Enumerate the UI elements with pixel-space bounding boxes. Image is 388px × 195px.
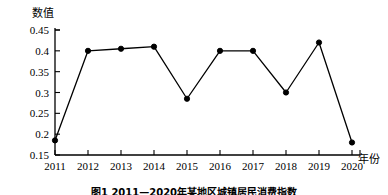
x-tick-label: 2019 <box>308 160 331 172</box>
data-point-marker[interactable] <box>349 140 354 145</box>
figure-caption: 图1 2011—2020年某地区城镇居民消费指数 <box>0 184 388 195</box>
data-point-marker[interactable] <box>85 48 90 53</box>
line-chart: 0.150.20.250.30.350.40.45201120122013201… <box>0 0 388 195</box>
data-point-marker[interactable] <box>217 48 222 53</box>
x-tick-label: 2012 <box>77 160 99 172</box>
y-tick-label: 0.3 <box>35 87 49 99</box>
figure-container: 数值 年份 0.150.20.250.30.350.40.45201120122… <box>0 0 388 195</box>
x-tick-label: 2013 <box>110 160 133 172</box>
y-tick-label: 0.4 <box>35 45 49 57</box>
y-tick-label: 0.25 <box>30 107 50 119</box>
y-tick-label: 0.2 <box>35 128 49 140</box>
data-point-marker[interactable] <box>184 96 189 101</box>
data-point-marker[interactable] <box>283 90 288 95</box>
y-tick-label: 0.35 <box>30 66 50 78</box>
data-point-marker[interactable] <box>52 138 57 143</box>
x-tick-label: 2015 <box>176 160 199 172</box>
x-tick-label: 2014 <box>143 160 166 172</box>
data-point-marker[interactable] <box>151 44 156 49</box>
data-point-marker[interactable] <box>118 46 123 51</box>
data-line <box>55 43 352 143</box>
x-tick-label: 2020 <box>341 160 364 172</box>
data-point-marker[interactable] <box>250 48 255 53</box>
x-tick-label: 2017 <box>242 160 265 172</box>
x-tick-label: 2016 <box>209 160 232 172</box>
y-tick-label: 0.45 <box>30 24 50 36</box>
x-tick-label: 2011 <box>44 160 66 172</box>
data-point-marker[interactable] <box>316 40 321 45</box>
x-tick-label: 2018 <box>275 160 298 172</box>
